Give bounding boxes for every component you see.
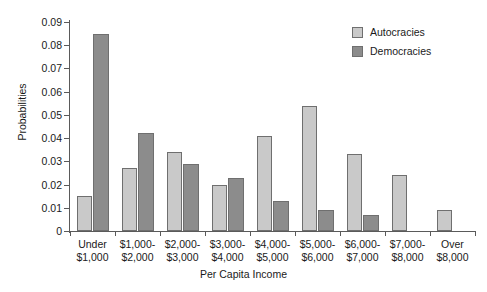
bar-chart: 0.090.080.070.060.050.040.030.020.010 Pr… [0,0,487,292]
x-tick-label: Over$8,000 [423,238,483,263]
legend-label: Autocracies [370,27,425,38]
bar [318,210,334,231]
y-tick-label: 0.08 [26,40,62,50]
y-tick-mark [64,115,69,116]
chart-legend: AutocraciesDemocracies [352,24,431,62]
y-tick-mark [64,161,69,162]
legend-swatch [352,27,363,38]
y-tick-label: 0.02 [26,180,62,190]
x-tick-mark [70,232,71,236]
y-tick-label: 0.09 [26,17,62,27]
y-tick-mark [64,138,69,139]
x-tick-mark [115,232,116,236]
legend-swatch [352,46,363,57]
bar [228,178,244,231]
y-axis-title: Probabilities [16,52,28,172]
bar [167,152,183,231]
y-tick-mark [64,208,69,209]
x-tick-mark [205,232,206,236]
bar [347,154,363,231]
y-tick-label: 0.07 [26,63,62,73]
y-tick-mark [64,92,69,93]
y-tick-mark [64,22,69,23]
legend-label: Democracies [370,46,431,57]
y-tick-mark [64,68,69,69]
bar [93,34,109,231]
x-tick-mark [160,232,161,236]
y-tick-label: 0.04 [26,133,62,143]
x-tick-mark [475,232,476,236]
x-axis-line [69,231,476,232]
bar [212,185,228,231]
x-tick-label-line: $8,000 [423,251,483,264]
x-tick-mark [340,232,341,236]
bar [122,168,138,231]
bar [77,196,93,231]
y-tick-mark [64,185,69,186]
y-tick-label: 0.01 [26,203,62,213]
legend-item: Democracies [352,43,431,59]
y-tick-label: 0 [26,226,62,236]
y-tick-label: 0.03 [26,156,62,166]
x-tick-mark [430,232,431,236]
bar [257,136,273,231]
bar [363,215,379,231]
legend-item: Autocracies [352,24,431,40]
bar [392,175,408,231]
x-tick-mark [250,232,251,236]
bar [183,164,199,231]
bar [302,106,318,231]
x-axis-title: Per Capita Income [0,268,487,280]
x-tick-mark [295,232,296,236]
bar [138,133,154,231]
x-tick-label-line: Over [423,238,483,251]
x-tick-mark [385,232,386,236]
y-tick-label: 0.05 [26,110,62,120]
bar [437,210,453,231]
y-tick-mark [64,45,69,46]
y-tick-label: 0.06 [26,87,62,97]
bar [273,201,289,231]
